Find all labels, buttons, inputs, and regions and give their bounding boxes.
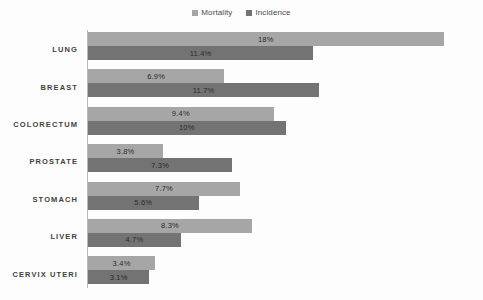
legend-label-incidence: Incidence xyxy=(255,8,290,17)
category-label-prostate: PROSTATE xyxy=(0,143,78,180)
bar-mortality-prostate[interactable]: 3.8% xyxy=(88,144,163,158)
category-label-breast: BREAST xyxy=(0,68,78,105)
plot-area: LUNG18%11.4%BREAST6.9%11.7%COLORECTUM9.4… xyxy=(0,30,483,292)
bar-value-label: 8.3% xyxy=(161,221,179,230)
category-label-cervix-uteri: CERVIX UTERI xyxy=(0,255,78,292)
bar-mortality-liver[interactable]: 8.3% xyxy=(88,219,252,233)
bar-pair: 6.9%11.7% xyxy=(88,68,483,105)
bar-pair: 3.8%7.3% xyxy=(88,143,483,180)
legend-entry-mortality[interactable]: Mortality xyxy=(192,8,232,17)
bar-incidence-prostate[interactable]: 7.3% xyxy=(88,158,232,172)
bar-group: STOMACH7.7%5.6% xyxy=(0,181,483,218)
legend-entry-incidence[interactable]: Incidence xyxy=(246,8,290,17)
bar-group: CERVIX UTERI3.4%3.1% xyxy=(0,255,483,292)
bar-group: BREAST6.9%11.7% xyxy=(0,68,483,105)
bar-incidence-colorectum[interactable]: 10% xyxy=(88,121,286,135)
bar-value-label: 18% xyxy=(258,35,274,44)
bar-incidence-stomach[interactable]: 5.6% xyxy=(88,196,199,210)
bar-value-label: 7.3% xyxy=(151,161,169,170)
bar-pair: 18%11.4% xyxy=(88,31,483,68)
bar-mortality-colorectum[interactable]: 9.4% xyxy=(88,107,274,121)
bar-value-label: 3.8% xyxy=(117,147,135,156)
bar-incidence-cervix-uteri[interactable]: 3.1% xyxy=(88,270,149,284)
bar-rows: LUNG18%11.4%BREAST6.9%11.7%COLORECTUM9.4… xyxy=(0,31,483,293)
bar-mortality-cervix-uteri[interactable]: 3.4% xyxy=(88,256,155,270)
bar-value-label: 11.4% xyxy=(190,49,212,58)
bar-pair: 7.7%5.6% xyxy=(88,181,483,218)
bar-value-label: 10% xyxy=(179,123,195,132)
bar-pair: 3.4%3.1% xyxy=(88,255,483,292)
category-label-stomach: STOMACH xyxy=(0,181,78,218)
bar-incidence-lung[interactable]: 11.4% xyxy=(88,46,313,60)
bar-chart: Mortality Incidence LUNG18%11.4%BREAST6.… xyxy=(0,0,483,300)
bar-value-label: 4.7% xyxy=(125,235,143,244)
category-label-colorectum: COLORECTUM xyxy=(0,106,78,143)
bar-value-label: 6.9% xyxy=(147,72,165,81)
bar-value-label: 7.7% xyxy=(155,184,173,193)
legend-label-mortality: Mortality xyxy=(201,8,232,17)
bar-value-label: 11.7% xyxy=(193,86,215,95)
bar-value-label: 3.4% xyxy=(113,259,131,268)
bar-value-label: 9.4% xyxy=(172,109,190,118)
bar-value-label: 3.1% xyxy=(110,273,128,282)
bar-mortality-breast[interactable]: 6.9% xyxy=(88,69,224,83)
bar-incidence-liver[interactable]: 4.7% xyxy=(88,233,181,247)
category-label-lung: LUNG xyxy=(0,31,78,68)
legend-swatch-mortality-icon xyxy=(192,10,198,16)
bar-group: COLORECTUM9.4%10% xyxy=(0,106,483,143)
bar-pair: 8.3%4.7% xyxy=(88,218,483,255)
legend-swatch-incidence-icon xyxy=(246,10,252,16)
bar-mortality-lung[interactable]: 18% xyxy=(88,32,444,46)
bar-mortality-stomach[interactable]: 7.7% xyxy=(88,182,240,196)
bar-group: LIVER8.3%4.7% xyxy=(0,218,483,255)
category-label-liver: LIVER xyxy=(0,218,78,255)
bar-value-label: 5.6% xyxy=(134,198,152,207)
bar-group: PROSTATE3.8%7.3% xyxy=(0,143,483,180)
bar-pair: 9.4%10% xyxy=(88,106,483,143)
bar-group: LUNG18%11.4% xyxy=(0,31,483,68)
bar-incidence-breast[interactable]: 11.7% xyxy=(88,83,319,97)
chart-legend: Mortality Incidence xyxy=(0,8,483,17)
